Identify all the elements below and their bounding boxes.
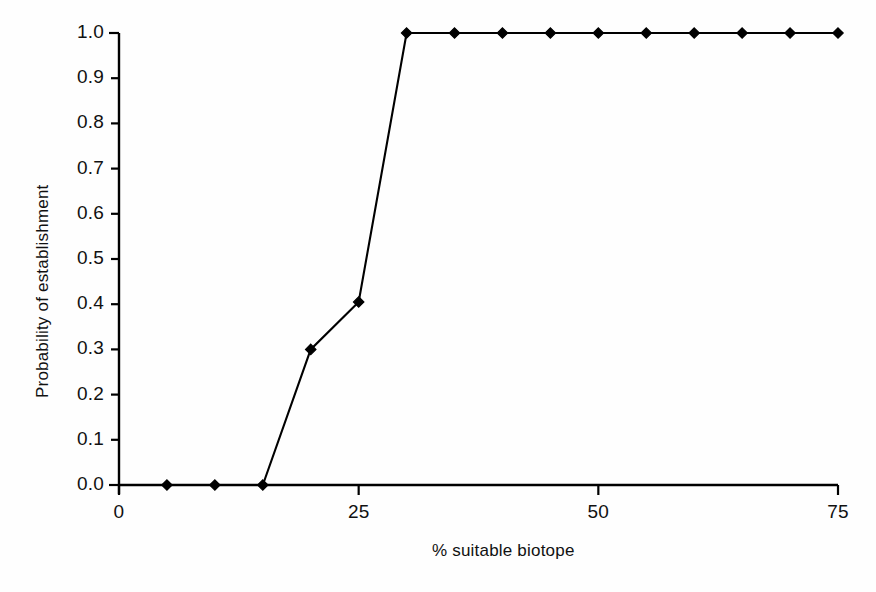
y-axis-tick-label: 0.2 [77, 383, 104, 405]
series-line [167, 33, 838, 485]
y-axis-tick-label: 0.3 [77, 337, 104, 359]
data-point-marker [641, 28, 651, 38]
y-axis-tick-label: 0.6 [77, 202, 104, 224]
y-axis-title: Probability of establishment [33, 185, 53, 399]
x-axis-tick-label: 75 [808, 501, 868, 523]
data-point-marker [497, 28, 507, 38]
data-series [162, 28, 843, 490]
x-axis-tick-label: 25 [329, 501, 389, 523]
data-point-marker [737, 28, 747, 38]
data-point-marker [545, 28, 555, 38]
x-axis-tick-label: 0 [89, 501, 149, 523]
data-point-marker [401, 28, 411, 38]
data-point-marker [210, 480, 220, 490]
y-axis-tick-label: 0.4 [77, 292, 104, 314]
x-axis-tick-label: 50 [568, 501, 628, 523]
chart-figure: 0.00.10.20.30.40.50.60.70.80.91.0 025507… [0, 0, 876, 592]
axes [109, 33, 838, 495]
y-axis-tick-label: 1.0 [77, 21, 104, 43]
data-point-marker [593, 28, 603, 38]
data-point-marker [785, 28, 795, 38]
y-axis-tick-label: 0.5 [77, 247, 104, 269]
y-axis-tick-label: 0.0 [77, 473, 104, 495]
y-axis-tick-label: 0.9 [77, 66, 104, 88]
y-axis-tick-label: 0.8 [77, 111, 104, 133]
y-axis-tick-label: 0.1 [77, 428, 104, 450]
y-axis-tick-label: 0.7 [77, 157, 104, 179]
x-axis-title: % suitable biotope [432, 541, 575, 561]
data-point-marker [833, 28, 843, 38]
data-point-marker [689, 28, 699, 38]
data-point-marker [258, 480, 268, 490]
data-point-marker [162, 480, 172, 490]
data-point-marker [449, 28, 459, 38]
